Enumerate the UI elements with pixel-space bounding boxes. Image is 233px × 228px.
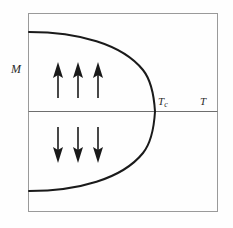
spin-down-arrow-1 <box>53 127 63 163</box>
magnetization-phase-diagram: M Tc T <box>0 0 233 228</box>
spin-up-arrow-3 <box>93 62 103 98</box>
x-axis-label-T: T <box>200 96 206 107</box>
critical-temperature-label: Tc <box>158 96 168 109</box>
upper-magnetization-branch <box>29 32 155 112</box>
spin-down-arrow-2 <box>73 127 83 163</box>
spin-up-arrow-2 <box>73 62 83 98</box>
critical-temperature-subscript: c <box>164 100 168 109</box>
spin-down-arrow-3 <box>93 127 103 163</box>
lower-magnetization-branch <box>29 112 155 192</box>
spin-up-arrow-1 <box>53 62 63 98</box>
figure-canvas <box>0 0 233 228</box>
y-axis-label-M: M <box>11 63 21 75</box>
plot-frame <box>29 14 218 212</box>
